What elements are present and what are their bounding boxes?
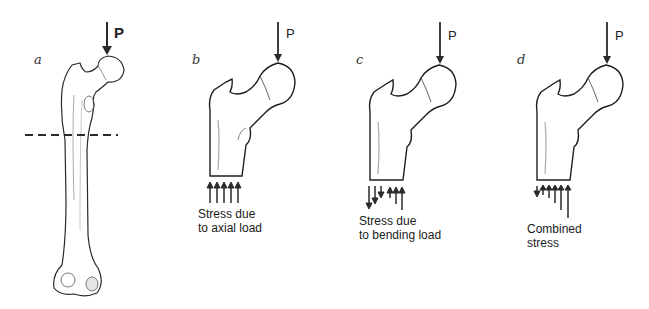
proximal-femur-drawing bbox=[180, 0, 330, 309]
panel-b-axial-load: b P Stress due to axial load bbox=[180, 0, 330, 309]
proximal-femur-drawing bbox=[340, 0, 490, 309]
stress-arrows-axial bbox=[207, 182, 241, 203]
load-arrow-icon bbox=[102, 22, 112, 55]
panel-a-whole-femur: a P bbox=[0, 0, 170, 309]
proximal-femur-drawing bbox=[500, 0, 649, 309]
panel-d-combined-stress: d P Combined stress bbox=[500, 0, 649, 309]
load-arrow-icon bbox=[274, 22, 282, 62]
panel-c-bending-load: c P Stress due to bending load bbox=[340, 0, 490, 309]
femur-drawing bbox=[0, 0, 170, 309]
caption-axial-stress: Stress due to axial load bbox=[198, 207, 262, 235]
stress-arrows-combined bbox=[534, 185, 571, 218]
load-arrow-icon bbox=[436, 22, 444, 64]
stress-arrows-bending bbox=[366, 186, 405, 210]
caption-bending-stress: Stress due to bending load bbox=[359, 214, 441, 242]
load-arrow-icon bbox=[603, 22, 611, 64]
caption-combined-stress: Combined stress bbox=[527, 222, 582, 250]
